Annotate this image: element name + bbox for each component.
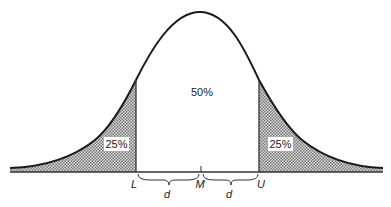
upper-bound-label: U — [257, 178, 265, 190]
right-tail-shade — [259, 80, 383, 172]
left-tail-percent: 25% — [105, 138, 127, 150]
lower-bound-label: L — [131, 178, 137, 190]
normal-curve-diagram: 25% 25% 50% L M U d d — [0, 0, 391, 207]
left-tail-shade — [10, 80, 136, 172]
median-label: M — [195, 178, 205, 190]
right-tail-percent: 25% — [269, 138, 291, 150]
left-distance-label: d — [164, 188, 171, 200]
center-percent: 50% — [191, 86, 213, 98]
left-brace — [138, 174, 199, 185]
right-brace — [203, 174, 258, 185]
right-distance-label: d — [226, 188, 233, 200]
